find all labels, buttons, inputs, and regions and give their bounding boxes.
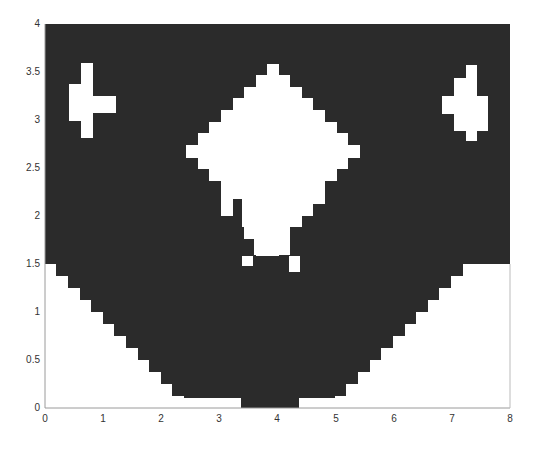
white-cell-right-leg [289,256,300,272]
x-tick-8: 8 [507,413,513,424]
y-tick-3: 3 [34,114,40,125]
x-tick-3: 3 [216,413,222,424]
x-tick-2: 2 [158,413,164,424]
plot-area [45,24,510,408]
y-tick-2-5: 2.5 [26,162,40,173]
y-tick-3-5: 3.5 [26,66,40,77]
binary-image-plot: 0 1 2 3 4 5 6 7 8 0 0.5 1 1.5 2 2.5 3 3.… [0,0,538,449]
x-tick-5: 5 [333,413,339,424]
y-tick-1-5: 1.5 [26,258,40,269]
x-tick-4: 4 [274,413,280,424]
y-tick-0-5: 0.5 [26,354,40,365]
y-tick-4: 4 [34,18,40,29]
x-tick-7: 7 [449,413,455,424]
x-tick-1: 1 [100,413,106,424]
x-tick-0: 0 [42,413,48,424]
y-tick-labels: 0 0.5 1 1.5 2 2.5 3 3.5 4 [26,18,40,413]
y-tick-1: 1 [34,306,40,317]
y-tick-0: 0 [34,402,40,413]
white-cell-left-leg [242,256,253,266]
x-tick-6: 6 [391,413,397,424]
y-tick-2: 2 [34,210,40,221]
x-tick-labels: 0 1 2 3 4 5 6 7 8 [42,413,513,424]
